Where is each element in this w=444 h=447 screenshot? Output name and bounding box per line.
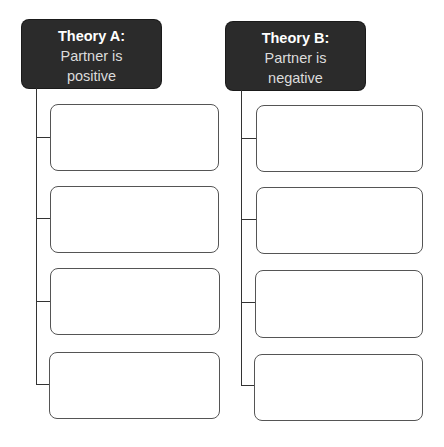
theory-a-connector-1 [36,137,51,138]
theory-b-box-2[interactable] [256,187,423,254]
theory-b-line1: Partner is [226,48,365,68]
theory-a-title: Theory A: [22,26,161,46]
theory-b-header: Theory B: Partner is negative [226,22,365,90]
theory-a-connector-2 [36,218,51,219]
theory-b-box-3[interactable] [255,270,423,338]
theory-b-line2: negative [226,68,365,88]
theory-b-connector-3 [241,302,256,303]
theory-a-box-4[interactable] [49,352,220,419]
theory-a-line1: Partner is [22,46,161,66]
theory-b-trunk-line [241,90,242,386]
theory-a-line2: positive [22,66,161,86]
theory-b-box-1[interactable] [256,105,423,172]
theory-b-title: Theory B: [226,28,365,48]
theory-a-box-3[interactable] [50,268,220,335]
theory-a-box-2[interactable] [50,186,219,253]
theory-a-trunk-line [36,88,37,385]
theory-a-connector-3 [36,301,51,302]
theory-b-connector-2 [241,219,256,220]
theory-a-header: Theory A: Partner is positive [22,20,161,88]
theory-b-connector-1 [241,138,256,139]
theory-b-box-4[interactable] [254,354,423,421]
theory-a-box-1[interactable] [50,104,219,171]
